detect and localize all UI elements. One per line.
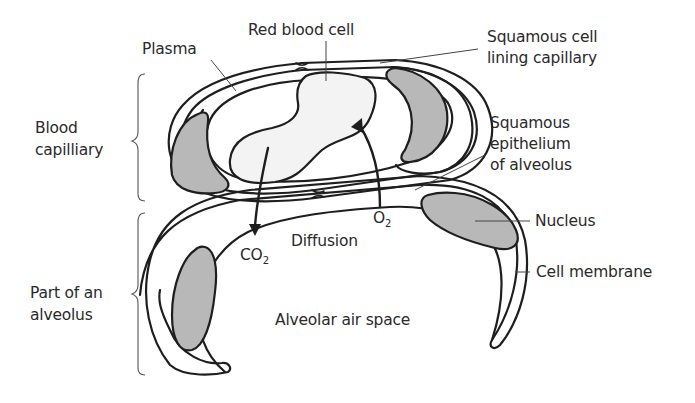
label-alveolar-air-space: Alveolar air space (275, 310, 410, 330)
label-blood-capillary-line1: Blood (35, 118, 78, 138)
label-co2: CO2 (240, 245, 269, 271)
label-alveolus-line2: alveolus (30, 305, 93, 325)
label-squamous-epi-line2: epithelium (490, 134, 571, 154)
label-o2: O2 (373, 208, 391, 234)
label-nucleus: Nucleus (535, 211, 595, 231)
label-squamous-lining-line1: Squamous cell (487, 27, 597, 47)
label-blood-capillary-line2: capilliary (35, 140, 103, 160)
label-cell-membrane: Cell membrane (536, 262, 652, 282)
label-squamous-epi-line1: Squamous (490, 113, 570, 133)
nucleus-capillary-right (386, 68, 447, 162)
leader-squamous-lining (380, 49, 478, 63)
label-red-blood-cell: Red blood cell (248, 20, 354, 40)
label-diffusion: Diffusion (291, 231, 358, 251)
gas-exchange-diagram: Plasma Red blood cell Squamous cell lini… (0, 0, 695, 403)
bracket-alveolus (132, 213, 145, 375)
bracket-blood-capillary (132, 74, 145, 201)
label-squamous-lining-line2: lining capillary (487, 48, 597, 68)
nucleus-alveolus-left (172, 247, 216, 351)
o2-arrow-shaft (360, 126, 380, 207)
nucleus-capillary-left (171, 113, 228, 194)
label-squamous-epi-line3: of alveolus (490, 155, 572, 175)
label-plasma: Plasma (142, 39, 197, 59)
label-alveolus-line1: Part of an (30, 283, 103, 303)
